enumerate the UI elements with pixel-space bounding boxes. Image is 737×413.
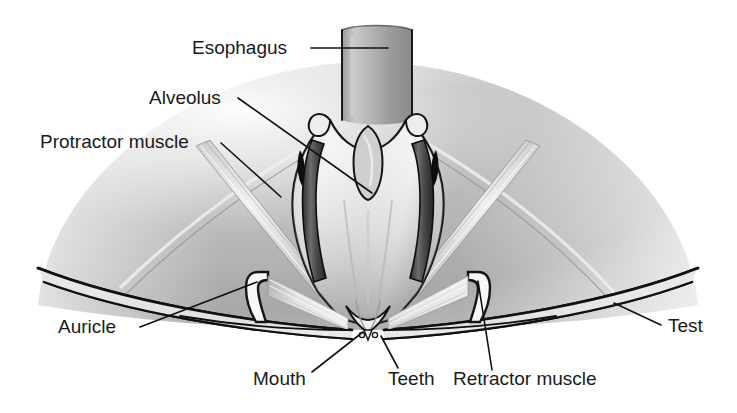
diagram-canvas: Esophagus Alveolus Protractor muscle Aur… [0, 0, 737, 413]
label-retractor-muscle: Retractor muscle [453, 368, 597, 389]
label-auricle: Auricle [58, 316, 116, 337]
label-teeth: Teeth [388, 368, 434, 389]
label-mouth: Mouth [253, 368, 306, 389]
label-esophagus: Esophagus [192, 37, 287, 58]
label-protractor-muscle: Protractor muscle [40, 131, 189, 152]
label-alveolus: Alveolus [149, 87, 221, 108]
esophagus-tube [342, 26, 412, 125]
label-test: Test [668, 315, 704, 336]
anatomical-diagram: Esophagus Alveolus Protractor muscle Aur… [0, 0, 737, 413]
